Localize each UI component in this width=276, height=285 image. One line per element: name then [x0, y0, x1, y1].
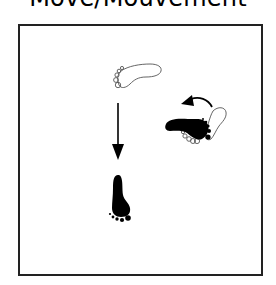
outline-footprint-icon	[114, 64, 162, 88]
pivot-filled-footprint-icon	[165, 118, 211, 140]
movement-diagram	[0, 0, 276, 285]
rotation-arrow-icon	[181, 95, 212, 107]
down-arrow-icon	[112, 103, 124, 160]
filled-footprint-icon	[109, 175, 131, 222]
